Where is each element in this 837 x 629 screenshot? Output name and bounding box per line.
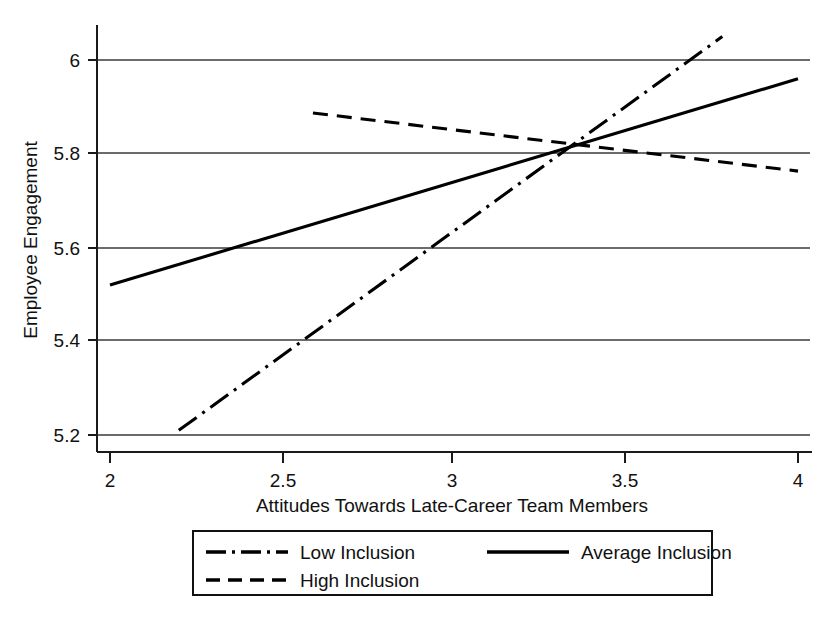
legend-box <box>193 531 712 595</box>
axes-spines <box>97 25 812 452</box>
legend-label-high-inclusion: High Inclusion <box>300 570 419 591</box>
series-line-high-inclusion <box>313 113 798 171</box>
data-series <box>110 37 798 431</box>
gridlines <box>97 60 810 435</box>
series-line-low-inclusion <box>179 37 723 431</box>
legend-label-low-inclusion: Low Inclusion <box>300 542 415 563</box>
y-axis-title: Employee Engagement <box>20 141 41 339</box>
y-tick-label-6: 6 <box>69 50 80 71</box>
chart-figure: 6 5.8 5.6 5.4 5.2 2 2.5 3 3.5 4 Employee… <box>0 0 837 629</box>
x-tick-label-3: 3 <box>447 470 458 491</box>
x-tick-label-2-5: 2.5 <box>270 470 296 491</box>
y-tick-label-5-2: 5.2 <box>54 425 80 446</box>
x-tickmarks <box>110 452 798 463</box>
x-tick-label-4: 4 <box>793 470 804 491</box>
legend-label-average-inclusion: Average Inclusion <box>581 542 732 563</box>
y-tick-label-5-4: 5.4 <box>54 330 81 351</box>
x-tick-label-3-5: 3.5 <box>612 470 638 491</box>
x-axis-title: Attitudes Towards Late-Career Team Membe… <box>256 495 648 516</box>
line-chart: 6 5.8 5.6 5.4 5.2 2 2.5 3 3.5 4 Employee… <box>0 0 837 629</box>
x-tick-label-2: 2 <box>105 470 116 491</box>
y-tick-label-5-6: 5.6 <box>54 238 80 259</box>
y-tick-label-5-8: 5.8 <box>54 143 80 164</box>
y-tickmarks <box>88 60 97 435</box>
legend[interactable]: Low Inclusion High Inclusion Average Inc… <box>193 531 732 595</box>
series-line-average-inclusion <box>110 79 798 285</box>
